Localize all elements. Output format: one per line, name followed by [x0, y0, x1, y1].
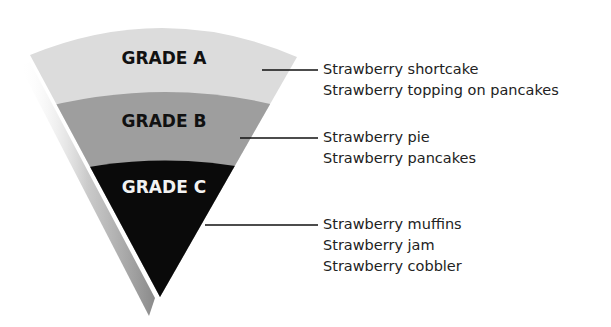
grade-c-item: Strawberry cobbler — [323, 256, 462, 277]
grade-a-label: GRADE A — [122, 48, 208, 68]
grade-a-item: Strawberry shortcake — [323, 59, 559, 80]
grade-b-items: Strawberry pie Strawberry pancakes — [323, 127, 476, 169]
grade-c-label: GRADE C — [122, 177, 206, 197]
grade-b-label: GRADE B — [122, 111, 207, 131]
grade-wedge-diagram: GRADE A GRADE B GRADE C — [0, 0, 611, 327]
grade-a-item: Strawberry topping on pancakes — [323, 80, 559, 101]
grade-b-item: Strawberry pancakes — [323, 148, 476, 169]
grade-a-items: Strawberry shortcake Strawberry topping … — [323, 59, 559, 101]
grade-c-item: Strawberry jam — [323, 235, 462, 256]
grade-c-items: Strawberry muffins Strawberry jam Strawb… — [323, 214, 462, 277]
grade-b-item: Strawberry pie — [323, 127, 476, 148]
grade-c-item: Strawberry muffins — [323, 214, 462, 235]
